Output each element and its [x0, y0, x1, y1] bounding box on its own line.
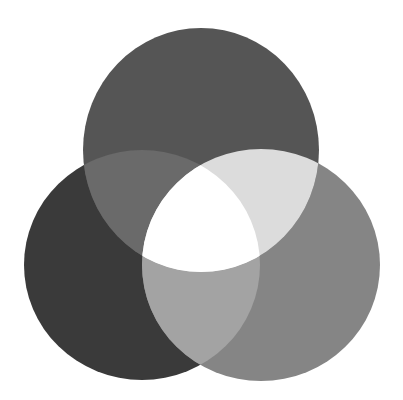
venn-diagram	[0, 0, 403, 400]
venn-svg	[0, 0, 403, 400]
